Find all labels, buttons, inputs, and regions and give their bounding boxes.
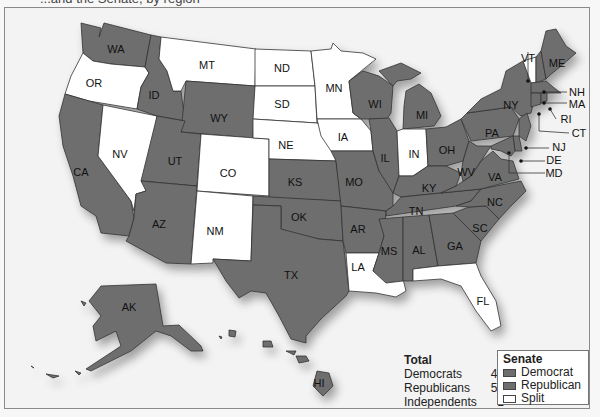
totals-title: Total [404,353,504,367]
state-NJ[interactable] [519,113,531,141]
label-WA: WA [107,43,125,55]
republican-swatch-icon [503,382,516,390]
label-NE: NE [278,139,293,151]
label-IL: IL [380,152,389,164]
label-TX: TX [284,269,299,281]
label-MA: MA [569,98,586,110]
label-AK: AK [122,301,137,313]
totals-row-republicans: Republicans 55 [404,381,504,395]
label-MD: MD [545,167,562,179]
label-SC: SC [472,222,487,234]
state-AK-islands [31,301,86,378]
state-WY[interactable] [181,81,255,138]
label-GA: GA [447,240,464,252]
label-MS: MS [381,245,398,257]
state-ME[interactable] [541,29,576,79]
label-ID: ID [149,89,160,101]
label-AZ: AZ [152,218,166,230]
label-KS: KS [288,176,303,188]
label-VA: VA [488,171,503,183]
label-UT: UT [168,155,183,167]
label-KY: KY [422,182,437,194]
label-NY: NY [503,99,519,111]
label-LA: LA [351,261,365,273]
label-CA: CA [73,166,89,178]
map-frame: WA OR CA NV ID MT WY UT AZ CO NM ND SD N… [4,7,590,409]
label-PA: PA [485,127,500,139]
senate-legend: Senate Democrat Republican Split [497,350,589,405]
label-ND: ND [274,62,290,74]
totals-row-independents: Independents 1 [404,395,504,409]
label-OH: OH [439,144,456,156]
label-MI: MI [416,109,428,121]
label-AR: AR [350,223,365,235]
label-DE: DE [546,154,561,166]
label-OR: OR [86,77,103,89]
label-AL: AL [412,244,425,256]
label-SD: SD [274,98,289,110]
split-swatch-icon [503,395,516,403]
state-KS[interactable] [269,159,341,201]
label-RI: RI [561,113,572,125]
label-IA: IA [338,131,349,143]
state-AK[interactable] [86,284,203,371]
state-NY[interactable] [467,61,534,116]
label-IN: IN [409,148,420,160]
label-WY: WY [210,112,228,124]
legend-item-split: Split [503,392,583,405]
label-CT: CT [572,127,587,139]
state-MA[interactable] [531,81,561,93]
caption-partial: ...and the Senate, by region [40,0,200,6]
label-NC: NC [487,196,503,208]
democrat-swatch-icon [503,369,516,377]
label-HI: HI [314,377,325,389]
label-MT: MT [199,59,215,71]
senate-totals: Total Democrats 44 Republicans 55 Indepe… [404,353,504,409]
label-FL: FL [477,295,490,307]
label-NM: NM [206,225,223,237]
label-CO: CO [220,167,237,179]
label-WV: WV [457,166,475,178]
label-ME: ME [549,57,566,69]
label-NV: NV [112,148,128,160]
label-NH: NH [569,86,585,98]
label-TN: TN [409,205,424,217]
label-MO: MO [345,176,363,188]
state-CT[interactable] [531,93,541,107]
us-senate-map: WA OR CA NV ID MT WY UT AZ CO NM ND SD N… [5,8,590,409]
label-WI: WI [368,98,381,110]
label-NJ: NJ [552,141,565,153]
label-OK: OK [291,211,308,223]
state-CO[interactable] [197,134,269,196]
label-MN: MN [325,82,342,94]
totals-row-democrats: Democrats 44 [404,367,504,381]
